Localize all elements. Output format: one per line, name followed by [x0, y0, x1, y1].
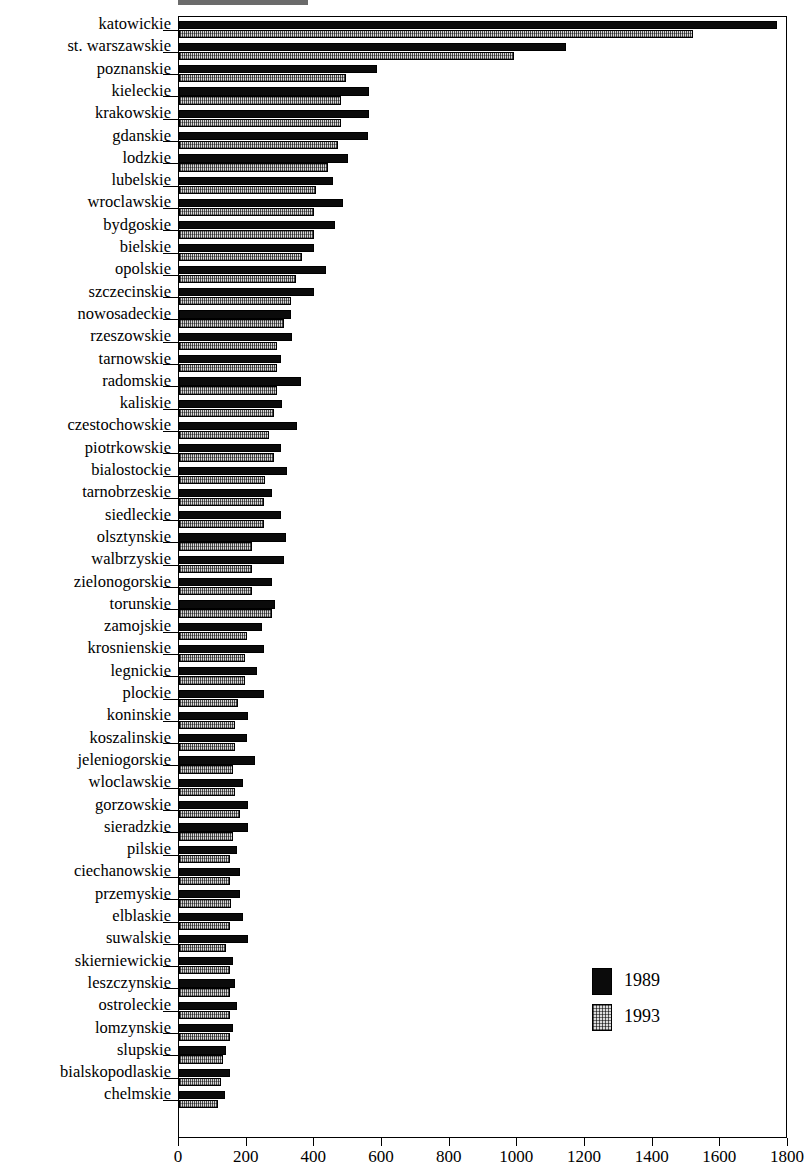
bar-1993 [179, 721, 235, 729]
y-axis-tick [163, 409, 178, 410]
bar-1993 [179, 253, 302, 261]
legend-item-1993: 1993 [592, 1002, 742, 1038]
category-label: siedleckie [105, 506, 171, 524]
bar-1993 [179, 699, 238, 707]
bar-1989 [179, 846, 237, 854]
bar-1993 [179, 476, 265, 484]
legend-item-1989: 1989 [592, 966, 742, 1002]
bar-1993 [179, 364, 277, 372]
y-axis-tick [163, 52, 178, 53]
bar-1993 [179, 52, 514, 60]
y-axis-tick [163, 832, 178, 833]
bar-1989 [179, 734, 247, 742]
y-axis-tick [163, 743, 178, 744]
category-label: bydgoskie [103, 216, 171, 234]
bar-1989 [179, 1002, 237, 1010]
category-label: czestochowskie [67, 416, 171, 434]
category-label: katowickie [99, 15, 171, 33]
category-label: legnickie [111, 662, 171, 680]
bar-1989 [179, 444, 281, 452]
x-axis-tick [719, 1138, 720, 1146]
bar-1989 [179, 310, 291, 318]
y-axis-tick [163, 1100, 178, 1101]
bar-1989 [179, 288, 314, 296]
chart-legend: 1989 1993 [592, 966, 742, 1038]
category-label: lomzynskie [95, 1019, 171, 1037]
y-axis-tick [163, 565, 178, 566]
y-axis-tick [163, 364, 178, 365]
y-axis-tick [163, 342, 178, 343]
bar-1989 [179, 756, 255, 764]
bar-1989 [179, 177, 333, 185]
bar-1993 [179, 966, 230, 974]
y-axis-tick [163, 96, 178, 97]
bar-row: legnickie [0, 666, 809, 688]
x-axis-tick [246, 1138, 247, 1146]
category-label: koszalinskie [89, 729, 171, 747]
y-axis-tick [163, 319, 178, 320]
y-axis-tick [163, 431, 178, 432]
x-axis-tick-label: 200 [233, 1147, 259, 1167]
y-axis-tick [163, 1011, 178, 1012]
category-label: rzeszowskie [90, 327, 171, 345]
bar-1993 [179, 565, 252, 573]
bar-1993 [179, 922, 230, 930]
bar-1989 [179, 578, 272, 586]
y-axis-tick [163, 810, 178, 811]
x-axis-tick [381, 1138, 382, 1146]
y-axis-tick [163, 208, 178, 209]
bar-1989 [179, 422, 297, 430]
bar-1993 [179, 275, 296, 283]
category-label: radomskie [102, 372, 171, 390]
legend-swatch-1989-icon [592, 968, 612, 995]
y-axis-tick [163, 899, 178, 900]
bar-1993 [179, 654, 245, 662]
y-axis-tick [163, 855, 178, 856]
bar-row: chelmskie [0, 1089, 809, 1111]
bar-1989 [179, 1091, 225, 1099]
y-axis-tick [163, 788, 178, 789]
bar-1989 [179, 690, 264, 698]
y-axis-tick [163, 1078, 178, 1079]
category-label: poznanskie [97, 60, 171, 78]
y-axis-tick [163, 609, 178, 610]
y-axis-tick [163, 721, 178, 722]
bar-1989 [179, 489, 272, 497]
x-axis-tick [516, 1138, 517, 1146]
category-label: suwalskie [106, 929, 171, 947]
y-axis-tick [163, 765, 178, 766]
bar-1989 [179, 1046, 226, 1054]
bar-1993 [179, 587, 252, 595]
y-axis-tick [163, 676, 178, 677]
bar-1993 [179, 765, 233, 773]
category-label: ostroleckie [99, 996, 171, 1014]
bar-1993 [179, 988, 230, 996]
x-axis-tick-label: 1200 [567, 1147, 601, 1167]
bar-1993 [179, 855, 230, 863]
bar-1993 [179, 832, 233, 840]
bar-1989 [179, 377, 301, 385]
bar-1993 [179, 1055, 223, 1063]
y-axis-tick [163, 119, 178, 120]
category-label: piotrkowskie [85, 439, 171, 457]
bar-1993 [179, 1011, 230, 1019]
bar-1989 [179, 667, 257, 675]
bar-1993 [179, 342, 277, 350]
category-label: jeleniogorskie [78, 751, 171, 769]
category-label: olsztynskie [97, 528, 171, 546]
x-axis-tick-label: 1400 [635, 1147, 669, 1167]
y-axis-tick [163, 74, 178, 75]
bar-1993 [179, 409, 274, 417]
bar-1989 [179, 957, 233, 965]
x-axis: 020040060080010001200140016001800 [178, 1138, 787, 1172]
bar-1989 [179, 1069, 230, 1077]
bar-1989 [179, 244, 314, 252]
bar-1993 [179, 810, 240, 818]
category-label: zielonogorskie [74, 573, 171, 591]
category-label: torunskie [110, 595, 171, 613]
bar-1993 [179, 30, 693, 38]
bar-1993 [179, 542, 252, 550]
y-axis-tick [163, 1033, 178, 1034]
legend-swatch-1993-icon [592, 1004, 612, 1031]
x-axis-tick [313, 1138, 314, 1146]
